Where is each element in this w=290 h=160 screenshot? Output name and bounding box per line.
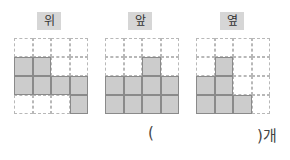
answer-blank[interactable] xyxy=(160,124,255,142)
empty-cell xyxy=(124,38,143,57)
filled-cell xyxy=(70,76,89,95)
filled-cell xyxy=(196,76,215,95)
filled-cell xyxy=(14,57,33,76)
filled-cell xyxy=(33,76,52,95)
empty-cell xyxy=(142,38,161,57)
view-top-grid xyxy=(14,38,88,114)
empty-cell xyxy=(33,38,52,57)
filled-cell xyxy=(233,95,252,114)
empty-cell xyxy=(233,57,252,76)
empty-cell xyxy=(70,38,89,57)
filled-cell xyxy=(215,57,234,76)
empty-cell xyxy=(215,38,234,57)
empty-cell xyxy=(196,38,215,57)
filled-cell xyxy=(105,95,124,114)
empty-cell xyxy=(70,57,89,76)
answer-open-paren: ( xyxy=(148,124,154,142)
empty-cell xyxy=(196,57,215,76)
view-side-grid xyxy=(196,38,270,114)
empty-cell xyxy=(161,38,180,57)
empty-cell xyxy=(252,57,271,76)
filled-cell xyxy=(215,76,234,95)
filled-cell xyxy=(124,95,143,114)
view-front-grid xyxy=(105,38,179,114)
filled-cell xyxy=(142,76,161,95)
empty-cell xyxy=(105,38,124,57)
filled-cell xyxy=(142,57,161,76)
empty-cell xyxy=(124,57,143,76)
empty-cell xyxy=(233,38,252,57)
filled-cell xyxy=(105,76,124,95)
empty-cell xyxy=(252,38,271,57)
view-front-label: 앞 xyxy=(128,12,152,30)
empty-cell xyxy=(33,95,52,114)
filled-cell xyxy=(124,76,143,95)
filled-cell xyxy=(161,95,180,114)
filled-cell xyxy=(196,95,215,114)
filled-cell xyxy=(215,95,234,114)
filled-cell xyxy=(70,95,89,114)
empty-cell xyxy=(252,95,271,114)
filled-cell xyxy=(14,76,33,95)
empty-cell xyxy=(252,76,271,95)
empty-cell xyxy=(14,95,33,114)
empty-cell xyxy=(51,95,70,114)
empty-cell xyxy=(14,38,33,57)
empty-cell xyxy=(161,57,180,76)
empty-cell xyxy=(51,38,70,57)
view-top-label: 위 xyxy=(37,12,61,30)
empty-cell xyxy=(51,57,70,76)
filled-cell xyxy=(161,76,180,95)
empty-cell xyxy=(233,76,252,95)
empty-cell xyxy=(105,57,124,76)
answer-close-paren-unit: )개 xyxy=(257,124,277,145)
filled-cell xyxy=(142,95,161,114)
view-side-label: 옆 xyxy=(220,12,244,30)
filled-cell xyxy=(33,57,52,76)
filled-cell xyxy=(51,76,70,95)
